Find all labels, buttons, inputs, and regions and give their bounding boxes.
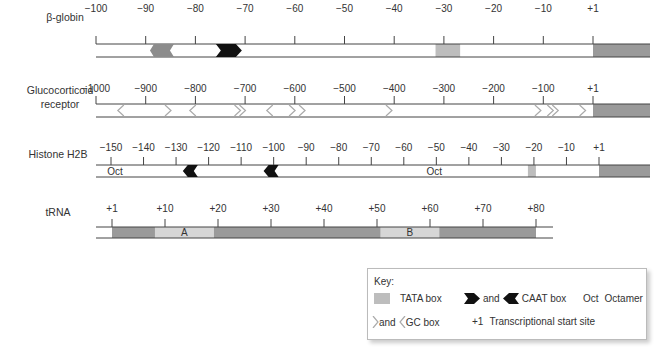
gc-box-right — [289, 105, 295, 116]
tick-label: −600 — [284, 83, 307, 94]
tick-label: −100 — [85, 3, 108, 14]
gc-box-right — [299, 105, 305, 116]
tick-label: −70 — [363, 142, 380, 153]
tick-label: −30 — [493, 142, 510, 153]
tick-label: −100 — [262, 142, 285, 153]
tick-label: −130 — [165, 142, 188, 153]
tick-label: −50 — [428, 142, 445, 153]
key-and-1: and — [483, 293, 500, 304]
octamer-label: Oct — [426, 166, 442, 177]
tick-label: −20 — [485, 3, 502, 14]
tick-label: −120 — [197, 142, 220, 153]
tick-label: +1 — [593, 142, 605, 153]
tick-label: +1 — [106, 203, 118, 214]
tick-label: −90 — [298, 142, 315, 153]
gc-box-left — [118, 105, 124, 116]
tick-label: −200 — [482, 83, 505, 94]
tick-label: −20 — [525, 142, 542, 153]
tick-label: −700 — [234, 83, 257, 94]
caat-right-icon — [464, 293, 480, 304]
tick-label: −800 — [184, 83, 207, 94]
gc-box-right — [165, 105, 171, 116]
caat-box-left — [264, 165, 279, 177]
tick-label: +20 — [210, 203, 227, 214]
key-caat-label: CAAT box — [522, 293, 567, 304]
tick-label: −70 — [237, 3, 254, 14]
tata-box — [436, 44, 461, 57]
tick-label: −300 — [433, 83, 456, 94]
key-legend: Key: TATA box and CAAT box Oct Octamer a… — [367, 268, 647, 340]
tick-label: +10 — [157, 203, 174, 214]
caat-box-right — [216, 44, 242, 57]
tick-label: −60 — [395, 142, 412, 153]
tick-label: −140 — [132, 142, 155, 153]
track-label: receptor — [41, 98, 80, 110]
track-label: tRNA — [45, 206, 70, 218]
tick-label: −10 — [535, 3, 552, 14]
gc-box-right — [235, 105, 241, 116]
key-gc-label: GC box — [406, 317, 440, 328]
tick-label: −500 — [333, 83, 356, 94]
box-label: A — [181, 227, 188, 238]
tick-label: +70 — [475, 203, 492, 214]
key-oct: Oct Octamer — [583, 293, 643, 304]
key-tata: TATA box — [374, 293, 442, 304]
key-tss-label: Transcriptional start site — [489, 316, 595, 327]
key-caat: and CAAT box — [464, 293, 566, 304]
tick-label: +50 — [369, 203, 386, 214]
track-label: β-globin — [46, 11, 84, 23]
key-title: Key: — [374, 276, 394, 287]
tick-label: +30 — [263, 203, 280, 214]
key-plus1: +1 — [472, 316, 483, 327]
downstream-region — [599, 165, 650, 177]
tick-label: −80 — [187, 3, 204, 14]
downstream-region — [593, 44, 650, 57]
gc-box-right — [386, 105, 392, 116]
tick-label: −50 — [336, 3, 353, 14]
tick-label: −60 — [286, 3, 303, 14]
tick-label: +1 — [587, 83, 599, 94]
tick-label: −1000 — [82, 83, 111, 94]
caat-box-left — [183, 165, 198, 177]
gc-right-icon — [372, 316, 379, 328]
tick-label: −30 — [435, 3, 452, 14]
box-label: B — [407, 227, 414, 238]
track-label: Histone H2B — [29, 148, 88, 160]
gc-box-left — [267, 105, 273, 116]
tick-label: −400 — [383, 83, 406, 94]
tick-label: +80 — [528, 203, 545, 214]
gc-box-right — [535, 105, 541, 116]
key-tata-label: TATA box — [400, 293, 442, 304]
tick-label: −100 — [532, 83, 555, 94]
key-and-2: and — [379, 317, 396, 328]
key-gc: and GC box — [372, 316, 440, 328]
tick-label: +60 — [422, 203, 439, 214]
tick-label: +1 — [587, 3, 599, 14]
caat-left-icon — [503, 293, 519, 304]
tick-label: −150 — [100, 142, 123, 153]
gc-box-left — [190, 105, 196, 116]
tick-label: −10 — [558, 142, 575, 153]
tick-label: −900 — [134, 83, 157, 94]
gc-box-right — [580, 105, 586, 116]
gc-left-icon — [398, 316, 406, 328]
gc-box-right — [547, 105, 553, 116]
key-tss: +1 Transcriptional start site — [472, 316, 595, 327]
tick-label: −80 — [330, 142, 347, 153]
tick-label: −40 — [386, 3, 403, 14]
tick-label: −40 — [460, 142, 477, 153]
gc-box-left — [150, 44, 174, 57]
downstream-region — [593, 104, 650, 117]
tata-box — [528, 165, 536, 177]
tick-label: −110 — [230, 142, 252, 153]
tick-label: −90 — [137, 3, 154, 14]
tick-label: +40 — [316, 203, 333, 214]
key-oct-abbr: Oct — [583, 293, 599, 304]
tata-swatch — [374, 293, 390, 304]
key-oct-label: Octamer — [605, 293, 643, 304]
octamer-label: Oct — [107, 166, 123, 177]
